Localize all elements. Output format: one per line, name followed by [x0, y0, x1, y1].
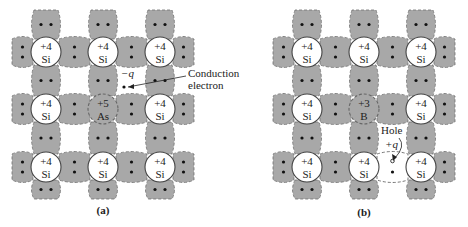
- electron-dot: [414, 136, 417, 139]
- bond: [350, 10, 379, 39]
- bond: [273, 94, 294, 125]
- atom-charge: +4: [301, 40, 313, 52]
- electron-dot: [182, 170, 185, 173]
- electron-dot: [357, 23, 360, 26]
- electron-dot: [424, 188, 427, 191]
- bond: [320, 152, 351, 183]
- caption-b: (b): [357, 206, 371, 219]
- atom-charge: +4: [358, 155, 370, 167]
- electron-dot: [414, 23, 417, 26]
- atom-symbol: Si: [359, 168, 368, 180]
- atom-charge: +4: [301, 155, 313, 167]
- atom-symbol: Si: [302, 53, 311, 65]
- atom-si: +4Si: [145, 37, 175, 67]
- bond: [173, 152, 194, 183]
- bond: [173, 37, 194, 68]
- electron-dot: [282, 112, 285, 115]
- atom-si: +4Si: [145, 94, 175, 124]
- electron-dot: [73, 160, 76, 163]
- bond: [407, 65, 436, 96]
- electron-dot: [367, 188, 370, 191]
- conduction-electron-dot: [122, 85, 125, 88]
- hole-label: Hole: [381, 124, 403, 136]
- electron-charge-label: −q: [121, 67, 134, 79]
- atom-charge: +4: [415, 40, 427, 52]
- electron-dot: [310, 136, 313, 139]
- bond: [116, 152, 147, 183]
- atom-symbol: As: [97, 110, 109, 122]
- electron-dot: [443, 55, 446, 58]
- bond: [350, 65, 379, 96]
- conduction-label-line2: electron: [188, 79, 224, 91]
- atom-si: +4Si: [406, 152, 436, 182]
- atom-symbol: Si: [98, 168, 107, 180]
- atom-symbol: Si: [155, 53, 164, 65]
- hole-charge-label: +q: [385, 138, 398, 150]
- electron-dot: [73, 45, 76, 48]
- atom-si: +4Si: [406, 94, 436, 124]
- electron-dot: [106, 23, 109, 26]
- atom-si: +4Si: [349, 37, 379, 67]
- electron-dot: [424, 136, 427, 139]
- electron-dot: [414, 188, 417, 191]
- electron-dot: [300, 79, 303, 82]
- bond: [407, 122, 436, 154]
- bond: [273, 152, 294, 183]
- electron-dot: [367, 79, 370, 82]
- bond: [59, 152, 90, 183]
- atom-charge: +4: [40, 97, 52, 109]
- conduction-label-line1: Conduction: [188, 67, 240, 79]
- electron-dot: [367, 136, 370, 139]
- bond: [434, 37, 455, 68]
- impurity-atom-b: +3B: [349, 94, 379, 124]
- electron-dot: [334, 112, 337, 115]
- bond: [32, 122, 61, 154]
- impurity-atom-as: +5As: [88, 94, 118, 124]
- caption-a: (a): [97, 204, 110, 217]
- atom-symbol: Si: [416, 53, 425, 65]
- electron-dot: [106, 188, 109, 191]
- atom-symbol: Si: [302, 110, 311, 122]
- atom-si: +4Si: [88, 152, 118, 182]
- bond: [32, 10, 61, 39]
- electron-dot: [334, 55, 337, 58]
- bond: [293, 180, 322, 199]
- atom-symbol: Si: [155, 168, 164, 180]
- electron-dot: [39, 23, 42, 26]
- electron-dot: [96, 23, 99, 26]
- electron-dot: [182, 112, 185, 115]
- electron-dot: [130, 112, 133, 115]
- atom-si: +4Si: [31, 37, 61, 67]
- electron-dot: [310, 23, 313, 26]
- electron-dot: [391, 102, 394, 105]
- atom-symbol: Si: [41, 168, 50, 180]
- atom-symbol: Si: [98, 53, 107, 65]
- electron-dot: [282, 45, 285, 48]
- atom-symbol: Si: [41, 110, 50, 122]
- atom-charge: +4: [415, 97, 427, 109]
- electron-dot: [182, 55, 185, 58]
- electron-dot: [443, 160, 446, 163]
- atoms: +4Si+4Si+4Si+4Si+5As+4Si+4Si+4Si+4Si: [31, 37, 175, 182]
- electron-dot: [367, 23, 370, 26]
- bond: [146, 10, 175, 39]
- electron-dot: [106, 79, 109, 82]
- atom-charge: +4: [358, 40, 370, 52]
- electron-dot: [153, 136, 156, 139]
- bond: [293, 65, 322, 96]
- electron-dot: [21, 112, 24, 115]
- electron-dot: [282, 55, 285, 58]
- bond: [377, 94, 408, 125]
- atom-si: +4Si: [292, 94, 322, 124]
- bond: [434, 152, 455, 183]
- bond: [350, 122, 379, 154]
- electron-dot: [334, 170, 337, 173]
- atom-symbol: Si: [302, 168, 311, 180]
- atom-symbol: Si: [416, 110, 425, 122]
- electron-dot: [39, 79, 42, 82]
- electron-dot: [106, 136, 109, 139]
- atom-si: +4Si: [406, 37, 436, 67]
- electron-dot: [73, 112, 76, 115]
- electron-dot: [443, 45, 446, 48]
- atom-charge: +4: [415, 155, 427, 167]
